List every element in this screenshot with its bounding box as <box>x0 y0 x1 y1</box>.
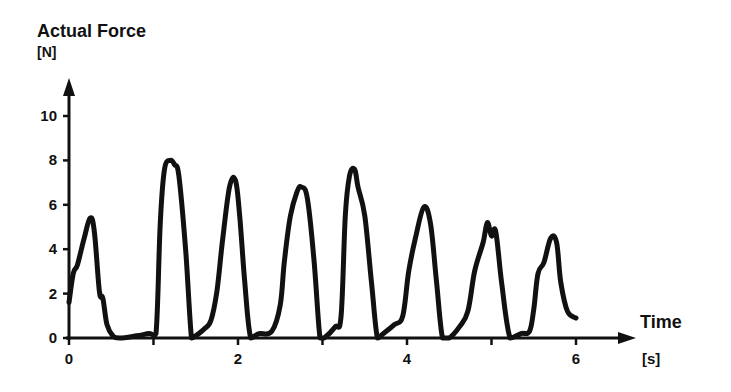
y-tick-label: 4 <box>49 240 58 257</box>
y-tick-label: 6 <box>49 196 57 213</box>
x-axis-arrow-icon <box>618 332 636 344</box>
x-tick-label: 0 <box>65 350 73 367</box>
y-ticks: 0246810 <box>40 107 69 346</box>
axes <box>63 78 636 344</box>
force-curve <box>69 160 576 338</box>
y-axis-arrow-icon <box>63 78 75 96</box>
y-tick-label: 0 <box>49 329 57 346</box>
y-tick-label: 2 <box>49 285 57 302</box>
x-ticks: 0246 <box>65 338 580 367</box>
line-chart: 0246810 0246 <box>0 0 731 392</box>
y-tick-label: 10 <box>40 107 57 124</box>
x-tick-label: 4 <box>403 350 412 367</box>
x-tick-label: 6 <box>572 350 580 367</box>
x-tick-label: 2 <box>234 350 242 367</box>
y-tick-label: 8 <box>49 151 57 168</box>
